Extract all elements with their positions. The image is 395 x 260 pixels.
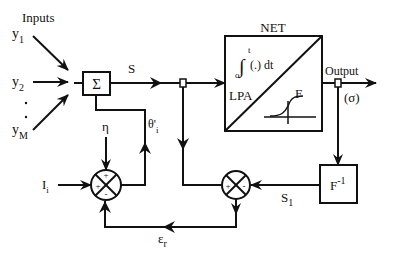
f-label: F — [295, 86, 302, 101]
neuron-block-diagram: Inputs y1 y2 yM Σ S NET o ∫ t (.) dt LPA… — [0, 0, 395, 260]
input-yM: yM — [12, 95, 68, 141]
branch-node — [180, 79, 186, 87]
svg-text:y2: y2 — [12, 74, 24, 93]
output-label: Output — [325, 64, 359, 78]
ellipsis-dot — [25, 102, 27, 104]
svg-text:-: - — [243, 181, 246, 191]
svg-text:y1: y1 — [12, 26, 24, 45]
sigma-output-label: (σ) — [344, 90, 360, 105]
branch-to-junction-line — [183, 87, 222, 185]
sum-block: Σ — [83, 72, 110, 95]
error-label: εr — [158, 231, 167, 249]
input-yM-arrow — [33, 95, 68, 130]
input-y1: y1 — [12, 26, 68, 70]
inputs-label: Inputs — [22, 10, 55, 25]
integral-body: (.) dt — [250, 58, 274, 72]
sigma-symbol: Σ — [92, 76, 101, 92]
svg-text:-: - — [105, 189, 108, 199]
threshold-junction: + + - — [91, 170, 121, 200]
error-junction: + - — [222, 171, 250, 199]
net-block: NET o ∫ t (.) dt LPA F — [225, 20, 322, 131]
input-y1-arrow — [33, 36, 68, 70]
signal-s-label: S — [128, 61, 135, 76]
svg-text:+: + — [95, 181, 100, 191]
output-node — [335, 79, 341, 87]
svg-text:+: + — [225, 181, 230, 191]
inverse-f-block: F-1 — [320, 165, 357, 203]
svg-text:yM: yM — [12, 122, 28, 141]
eta-label: η — [102, 119, 109, 134]
ellipsis-dot — [25, 116, 27, 118]
signal-s1-label: S1 — [281, 190, 293, 208]
svg-text:+: + — [103, 170, 108, 180]
current-label: Ii — [42, 177, 49, 195]
error-line — [105, 201, 236, 227]
net-title: NET — [260, 20, 285, 35]
input-y2: y2 — [12, 74, 68, 93]
lpa-label: LPA — [229, 88, 253, 103]
theta-label: θ'i — [148, 117, 159, 135]
